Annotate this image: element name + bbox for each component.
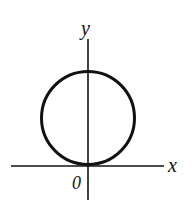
y-axis-label: y xyxy=(79,17,90,40)
origin-label: 0 xyxy=(72,173,81,193)
coordinate-diagram: y x 0 xyxy=(0,0,192,206)
x-axis-label: x xyxy=(167,154,177,176)
